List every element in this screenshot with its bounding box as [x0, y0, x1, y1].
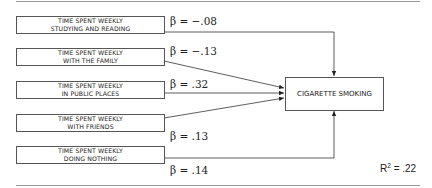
beta-coefficient: β = .13	[170, 130, 208, 142]
predictor-box-studying-reading: Time spent weekly studying and reading	[16, 16, 165, 34]
predictor-box-public-places: Time spent weekly in public places	[16, 81, 165, 99]
predictor-label-line2: in public places	[62, 90, 120, 98]
predictor-label-line2: with the family	[63, 57, 118, 65]
outcome-box-cigarette-smoking: Cigarette smoking	[285, 77, 384, 111]
beta-coefficient: β = .32	[170, 78, 208, 90]
outcome-label: Cigarette smoking	[297, 90, 372, 98]
beta-coefficient: β = .14	[170, 164, 208, 176]
predictor-box-family: Time spent weekly with the family	[16, 48, 165, 66]
r-squared-value: = .22	[391, 163, 416, 174]
predictor-label-line2: doing nothing	[64, 155, 117, 163]
predictor-label-line1: Time spent weekly	[58, 17, 123, 25]
beta-coefficient: β = −.08	[170, 15, 217, 27]
predictor-label-line1: Time spent weekly	[58, 49, 123, 57]
predictor-label-line2: with friends	[67, 123, 113, 131]
predictor-label-line1: Time spent weekly	[58, 82, 123, 90]
beta-coefficient: β = −.13	[170, 45, 217, 57]
predictor-box-doing-nothing: Time spent weekly doing nothing	[16, 146, 165, 164]
predictor-box-friends: Time spent weekly with friends	[16, 114, 165, 132]
r-squared-label: R2 = .22	[380, 162, 416, 174]
predictor-label-line2: studying and reading	[51, 25, 131, 33]
predictor-label-line1: Time spent weekly	[58, 147, 123, 155]
predictor-label-line1: Time spent weekly	[58, 115, 123, 123]
